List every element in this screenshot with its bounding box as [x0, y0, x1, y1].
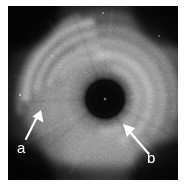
- annotation-label-a: a: [17, 140, 25, 155]
- annotation-label-b: b: [147, 150, 155, 165]
- catheter-core: [86, 80, 125, 119]
- ultrasound-figure: a b: [0, 0, 184, 189]
